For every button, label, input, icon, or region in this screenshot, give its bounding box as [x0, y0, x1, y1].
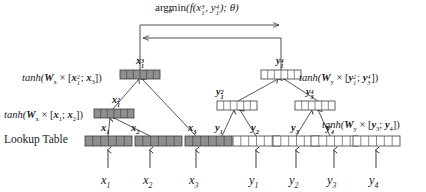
- lookup-table-label: Lookup Table: [4, 134, 68, 146]
- objective-loop-arrows: [140, 25, 281, 70]
- objective-function-label: argminθ(f(x31, y41); θ): [155, 2, 239, 13]
- vector-box-y1-2: [217, 101, 257, 110]
- diagram-canvas: argminθ(f(x31, y41); θ) tanh(Wx × [x21; …: [0, 0, 426, 192]
- node-label-y4: y4: [326, 123, 334, 134]
- input-arrows: [108, 150, 376, 168]
- node-label-y3: y3: [291, 123, 299, 134]
- node-label-y2: y2: [251, 123, 259, 134]
- vector-box-x3: [185, 136, 232, 146]
- argmin-operator: argminθ: [155, 2, 186, 13]
- node-label-y1: y1: [215, 123, 223, 134]
- vector-box-y3-4: [295, 101, 335, 110]
- node-label-x3: x3: [188, 123, 197, 134]
- input-token-y1: y1: [249, 174, 258, 187]
- input-token-y3: y3: [327, 174, 336, 187]
- equation-left-upper: tanh(Wx × [x21; x3]): [22, 73, 102, 84]
- input-token-x2: x2: [143, 174, 152, 187]
- node-label-x2: x2: [131, 123, 140, 134]
- vector-box-y1-4: [261, 70, 301, 79]
- vector-box-x1-2: [94, 109, 134, 118]
- argmin-theta-subscript: θ: [169, 8, 172, 15]
- node-label-x1-2: x21: [112, 95, 117, 105]
- vector-box-x2: [135, 136, 182, 146]
- input-token-x3: x3: [189, 174, 198, 187]
- node-label-y3-4: y43: [306, 87, 310, 97]
- node-label-x1: x1: [101, 123, 110, 134]
- objective-open: (f(: [186, 1, 196, 13]
- input-token-y2: y2: [289, 174, 298, 187]
- input-token-y4: y4: [369, 174, 378, 187]
- vector-box-x1: [85, 136, 132, 146]
- objective-close: ); θ): [220, 1, 239, 13]
- left-tree-edges: [108, 79, 196, 136]
- node-label-y1-2: y21: [216, 87, 220, 97]
- node-label-y1-4: y41: [276, 56, 280, 66]
- equation-right-upper: tanh(Wy × [y21; y43]): [299, 73, 378, 84]
- node-label-x1-3: x31: [136, 56, 141, 66]
- diagram-vector-layer: [0, 0, 426, 192]
- vector-box-x1-3: [120, 70, 160, 79]
- input-token-x1: x1: [101, 174, 110, 187]
- vector-box-y3: [311, 136, 358, 146]
- vector-box-y4: [353, 136, 400, 146]
- equation-left-lower: tanh(Wx × [x1; x2]): [4, 110, 83, 121]
